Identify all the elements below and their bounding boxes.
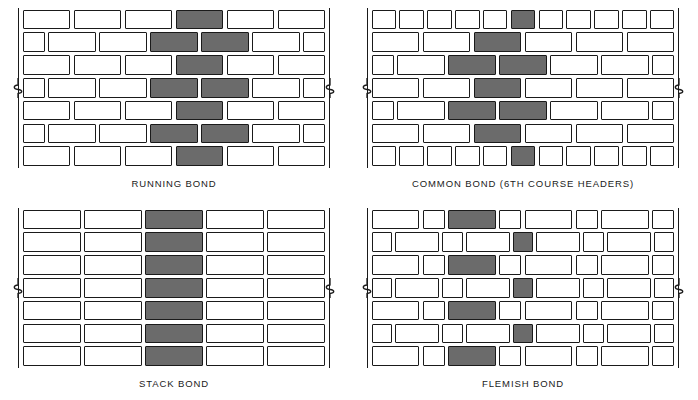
- brick-r5-c3: [206, 324, 264, 344]
- brick-r5-2: [474, 124, 522, 144]
- brick-r3-6: [303, 78, 325, 98]
- brick-r6-c4: [267, 346, 325, 366]
- brick-r4-4: [525, 301, 573, 321]
- wall-flemish-bond: [367, 208, 679, 368]
- brick-r3-3: [466, 278, 510, 298]
- brick-r3-6: [583, 278, 603, 298]
- brick-r2-0: [23, 55, 71, 75]
- brick-header-r6-8: [594, 146, 619, 166]
- bond-pattern-figure: RUNNING BONDCOMMON BOND (6TH COURSE HEAD…: [0, 0, 698, 400]
- brick-r1-2: [442, 232, 462, 252]
- brick-r4-6: [601, 301, 649, 321]
- brick-r1-6: [583, 232, 603, 252]
- brick-r0-1: [423, 210, 445, 230]
- brick-r5-4: [201, 124, 249, 144]
- brick-header-r0-8: [594, 10, 619, 30]
- brick-r6-c2: [145, 346, 203, 366]
- brick-r0-7: [652, 210, 674, 230]
- brick-header-r0-6: [539, 10, 564, 30]
- brick-r0-4: [227, 10, 275, 30]
- wall-edge-left: [367, 8, 368, 168]
- brick-r5-c2: [145, 324, 203, 344]
- brick-header-r0-7: [566, 10, 591, 30]
- wall-edge-left: [18, 208, 19, 368]
- brick-r5-4: [576, 124, 624, 144]
- brick-r4-3: [499, 101, 547, 121]
- brick-r1-4: [513, 232, 533, 252]
- brick-header-r6-2: [427, 146, 452, 166]
- brick-r0-6: [601, 210, 649, 230]
- brick-r5-2: [99, 124, 147, 144]
- brick-r2-c2: [145, 255, 203, 275]
- brick-r1-8: [654, 232, 674, 252]
- brick-r3-3: [525, 78, 573, 98]
- brick-r1-5: [536, 232, 580, 252]
- brick-header-r0-0: [372, 10, 397, 30]
- brick-r6-0: [372, 346, 420, 366]
- brick-header-r0-2: [427, 10, 452, 30]
- brick-r6-c1: [84, 346, 142, 366]
- brick-r6-4: [525, 346, 573, 366]
- brick-r5-5: [627, 124, 675, 144]
- brick-r5-6: [303, 124, 325, 144]
- wall-common-bond: [367, 8, 679, 168]
- wall-edge-right: [329, 8, 330, 168]
- brick-r2-3: [176, 55, 224, 75]
- brick-r2-5: [576, 255, 598, 275]
- brick-r4-6: [652, 101, 674, 121]
- brick-r5-0: [372, 324, 392, 344]
- brick-header-r0-4: [483, 10, 508, 30]
- brick-r1-1: [423, 32, 471, 52]
- brick-r4-3: [499, 301, 521, 321]
- wall-edge-left: [367, 208, 368, 368]
- brick-r0-1: [74, 10, 122, 30]
- brick-r5-1: [395, 324, 439, 344]
- brick-r6-2: [448, 346, 496, 366]
- brick-r1-3: [466, 232, 510, 252]
- brick-r2-1: [74, 55, 122, 75]
- brick-r5-0: [23, 124, 45, 144]
- brick-r0-2: [125, 10, 173, 30]
- brick-r3-2: [474, 78, 522, 98]
- brick-r4-c3: [206, 301, 264, 321]
- brick-header-r6-0: [372, 146, 397, 166]
- brick-r6-0: [23, 146, 71, 166]
- brick-r2-1: [397, 55, 445, 75]
- brick-r1-2: [474, 32, 522, 52]
- brick-r4-c0: [23, 301, 81, 321]
- brick-r5-5: [536, 324, 580, 344]
- brick-r0-c1: [84, 210, 142, 230]
- brick-header-r6-6: [539, 146, 564, 166]
- brick-r2-2: [448, 255, 496, 275]
- brick-r2-1: [423, 255, 445, 275]
- brick-r1-0: [372, 32, 420, 52]
- brick-r2-c3: [206, 255, 264, 275]
- brick-r4-5: [601, 101, 649, 121]
- brick-r0-5: [278, 10, 326, 30]
- brick-r1-0: [372, 232, 392, 252]
- brick-r1-5: [252, 32, 300, 52]
- brick-r3-7: [607, 278, 651, 298]
- brick-r3-c0: [23, 278, 81, 298]
- brick-header-r0-9: [622, 10, 647, 30]
- brick-r0-3: [499, 210, 521, 230]
- brick-r5-3: [525, 124, 573, 144]
- brick-r3-2: [442, 278, 462, 298]
- brick-header-r6-5: [511, 146, 536, 166]
- brick-r2-5: [278, 55, 326, 75]
- caption-common-bond: COMMON BOND (6TH COURSE HEADERS): [367, 178, 679, 189]
- brick-r4-4: [227, 101, 275, 121]
- brick-r5-c1: [84, 324, 142, 344]
- brick-r4-2: [448, 101, 496, 121]
- panel-stack-bond: STACK BOND: [18, 208, 330, 394]
- brick-r6-c3: [206, 346, 264, 366]
- brick-r4-5: [278, 101, 326, 121]
- brick-r5-6: [583, 324, 603, 344]
- brick-r1-6: [303, 32, 325, 52]
- brick-r1-7: [607, 232, 651, 252]
- brick-r3-0: [372, 78, 420, 98]
- brick-r6-5: [278, 146, 326, 166]
- brick-r2-4: [525, 255, 573, 275]
- brick-r5-8: [654, 324, 674, 344]
- brick-r2-c1: [84, 255, 142, 275]
